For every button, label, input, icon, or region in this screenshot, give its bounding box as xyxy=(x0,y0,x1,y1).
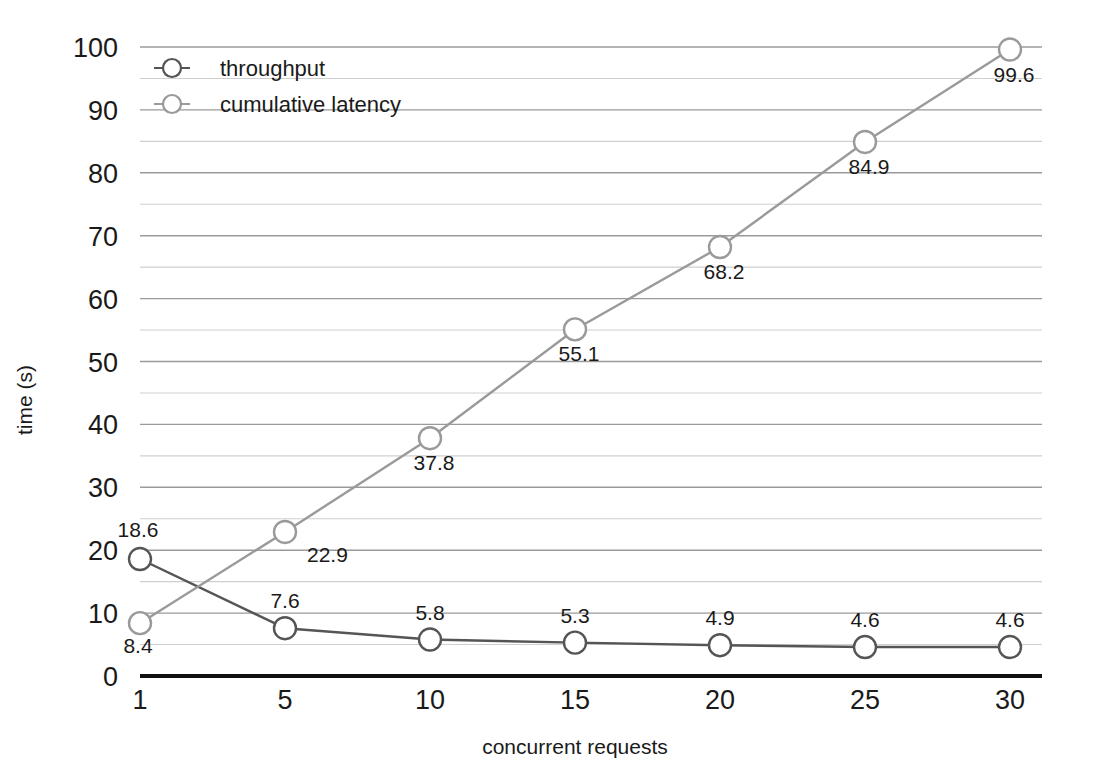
legend-marker-icon xyxy=(163,59,181,77)
data-point-label: 5.3 xyxy=(560,604,589,627)
x-tick-label: 5 xyxy=(277,685,292,715)
data-point-label: 22.9 xyxy=(307,543,348,566)
data-point-marker[interactable] xyxy=(129,548,151,570)
x-tick-label: 20 xyxy=(705,685,735,715)
data-point-label: 37.8 xyxy=(414,451,455,474)
data-point-label: 8.4 xyxy=(123,634,153,657)
data-point-marker[interactable] xyxy=(129,612,151,634)
data-point-marker[interactable] xyxy=(274,521,296,543)
x-tick-label: 1 xyxy=(132,685,147,715)
data-point-marker[interactable] xyxy=(564,632,586,654)
data-point-marker[interactable] xyxy=(274,617,296,639)
y-tick-label: 40 xyxy=(88,410,118,440)
x-tick-label: 30 xyxy=(995,685,1025,715)
y-tick-label: 20 xyxy=(88,536,118,566)
data-point-marker[interactable] xyxy=(999,636,1021,658)
y-tick-label: 0 xyxy=(103,662,118,692)
y-tick-label: 80 xyxy=(88,159,118,189)
data-point-label: 4.9 xyxy=(705,606,734,629)
data-point-marker[interactable] xyxy=(854,131,876,153)
data-point-marker[interactable] xyxy=(419,629,441,651)
y-tick-label: 50 xyxy=(88,348,118,378)
x-tick-label: 15 xyxy=(560,685,590,715)
chart-background xyxy=(0,0,1098,783)
data-point-label: 84.9 xyxy=(849,155,890,178)
data-point-label: 68.2 xyxy=(704,260,745,283)
legend-label: cumulative latency xyxy=(220,92,401,117)
y-tick-label: 60 xyxy=(88,285,118,315)
data-point-label: 55.1 xyxy=(559,342,600,365)
data-point-label: 18.6 xyxy=(118,518,159,541)
y-tick-label: 100 xyxy=(73,33,118,63)
data-point-label: 5.8 xyxy=(415,601,444,624)
legend-label: throughput xyxy=(220,56,325,81)
data-point-label: 4.6 xyxy=(995,608,1024,631)
legend-marker-icon xyxy=(163,95,181,113)
line-chart: 1009080706050403020100 151015202530 18.6… xyxy=(0,0,1098,783)
data-point-label: 4.6 xyxy=(850,608,879,631)
data-point-label: 99.6 xyxy=(994,63,1035,86)
x-tick-label: 25 xyxy=(850,685,880,715)
y-tick-label: 90 xyxy=(88,96,118,126)
x-axis-title: concurrent requests xyxy=(482,735,668,758)
data-point-marker[interactable] xyxy=(709,634,731,656)
y-axis-title: time (s) xyxy=(13,365,36,435)
data-point-marker[interactable] xyxy=(709,236,731,258)
data-point-marker[interactable] xyxy=(854,636,876,658)
data-point-marker[interactable] xyxy=(999,39,1021,61)
data-point-marker[interactable] xyxy=(564,318,586,340)
chart-container: 1009080706050403020100 151015202530 18.6… xyxy=(0,0,1098,783)
data-point-label: 7.6 xyxy=(270,589,299,612)
x-tick-label: 10 xyxy=(415,685,445,715)
data-point-marker[interactable] xyxy=(419,427,441,449)
y-tick-label: 10 xyxy=(88,599,118,629)
y-tick-label: 70 xyxy=(88,222,118,252)
y-tick-label: 30 xyxy=(88,473,118,503)
